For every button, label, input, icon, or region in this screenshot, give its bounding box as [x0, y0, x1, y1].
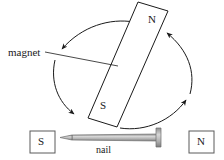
magnet-south-pole-label: S [100, 100, 106, 111]
figure-canvas: magnet nail N S S N [0, 0, 224, 160]
nail-head [156, 128, 161, 147]
nail-right-pole-label: N [197, 136, 205, 147]
magnet-nail-diagram [0, 0, 224, 160]
nail-label: nail [96, 145, 111, 155]
arc-bottom-right-arrow [120, 100, 186, 129]
arc-right-arrow [167, 33, 192, 94]
nail-left-pole-label: S [38, 136, 44, 147]
nail-tip [60, 135, 72, 140]
magnet-north-pole-label: N [148, 14, 156, 25]
nail-shaft [72, 134, 158, 141]
arc-left-arrow [54, 60, 74, 114]
magnet-leader-line [45, 52, 118, 66]
magnet-label: magnet [8, 47, 40, 58]
